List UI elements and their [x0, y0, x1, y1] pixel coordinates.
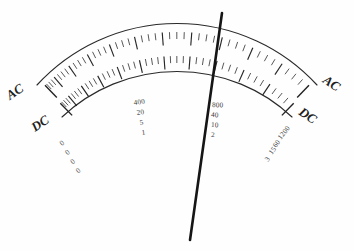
ac-major-tick — [87, 55, 93, 66]
ac-label-left: AC — [2, 80, 26, 103]
dc-major-tick — [98, 76, 104, 87]
ac-minor-tick — [206, 34, 207, 41]
scale-value-mid-left-3: 1 — [141, 129, 146, 137]
ac-minor-tick — [235, 42, 237, 49]
ac-minor-tick — [155, 33, 156, 40]
ac-minor-tick — [93, 52, 96, 58]
ac-minor-tick — [128, 38, 130, 45]
ac-end-tick — [297, 85, 309, 97]
meter-scale-drawing: AC AC DC DC 0000 400 20 5 1 800 40 10 2 — [0, 0, 354, 251]
ac-label-right: AC — [319, 71, 343, 94]
ac-major-tick — [135, 37, 138, 50]
ac-end-tick — [45, 85, 57, 97]
dc-minor-tick — [158, 57, 159, 64]
dc-major-tick — [68, 96, 76, 106]
ac-minor-tick — [98, 49, 101, 55]
ac-major-tick — [219, 37, 222, 50]
scale-value-mid-right-1: 40 — [211, 111, 219, 119]
ac-minor-tick — [57, 74, 61, 79]
ac-minor-tick — [78, 60, 82, 66]
dc-minor-tick — [235, 67, 238, 74]
ac-arc-group: AC AC — [2, 23, 343, 103]
dc-major-tick — [239, 70, 244, 82]
ac-major-tick — [162, 33, 163, 46]
ac-minor-tick — [213, 36, 214, 43]
dc-minor-tick — [228, 65, 230, 72]
ac-minor-tick — [298, 79, 303, 84]
dc-minor-tick — [202, 58, 203, 65]
dc-tick-marks — [60, 56, 293, 115]
dc-minor-tick — [107, 71, 110, 77]
dc-major-tick — [117, 67, 122, 79]
dc-minor-tick — [78, 88, 82, 94]
ac-minor-tick — [122, 40, 124, 47]
origin-zero-0: 0 — [58, 138, 67, 147]
dc-label-left: DC — [27, 112, 51, 135]
ac-major-tick — [248, 48, 253, 60]
dc-minor-tick — [222, 63, 224, 70]
origin-zero-2: 0 — [68, 156, 77, 165]
meter-face: AC AC DC DC 0000 400 20 5 1 800 40 10 2 — [0, 0, 354, 251]
dc-arc-line — [62, 71, 292, 117]
dc-minor-tick — [74, 91, 78, 97]
ac-minor-tick — [264, 55, 267, 61]
dc-minor-tick — [134, 62, 136, 69]
ac-minor-tick — [73, 63, 77, 69]
ac-minor-tick — [271, 59, 275, 65]
dc-minor-tick — [102, 74, 105, 80]
dc-minor-tick — [209, 59, 210, 66]
dc-label-right: DC — [295, 103, 319, 126]
dc-major-tick — [189, 57, 190, 70]
ac-minor-tick — [51, 80, 56, 85]
ac-minor-tick — [292, 74, 296, 79]
dc-major-tick — [263, 84, 270, 95]
dc-arc-group: DC DC — [27, 56, 319, 135]
ac-minor-tick — [148, 34, 149, 41]
ac-minor-tick — [228, 40, 230, 47]
dc-minor-tick — [71, 93, 75, 98]
ac-minor-tick — [82, 57, 85, 63]
origin-zero-3: 0 — [74, 166, 83, 175]
origin-zero-1: 0 — [63, 147, 72, 156]
dc-minor-tick — [123, 65, 125, 72]
ac-tick-marks — [45, 32, 309, 98]
ac-minor-tick — [243, 45, 246, 52]
ac-major-tick — [191, 33, 192, 46]
dc-minor-tick — [85, 83, 89, 89]
scale-value-mid-left-0: 400 — [133, 97, 146, 107]
ac-minor-tick — [65, 69, 69, 75]
dc-major-tick — [139, 60, 142, 73]
scale-value-right-end-3: 3 — [263, 155, 272, 163]
dc-minor-tick — [196, 57, 197, 64]
scale-labels-mid-left: 400 20 5 1 — [133, 97, 146, 137]
dc-minor-tick — [260, 80, 264, 86]
origin-zero-stack: 0000 — [58, 138, 83, 175]
scale-value-mid-right-2: 10 — [211, 121, 219, 129]
scale-labels-mid-right: 800 40 10 2 — [211, 101, 224, 139]
dc-minor-tick — [93, 78, 96, 84]
scale-value-mid-left-2: 5 — [139, 119, 144, 127]
ac-minor-tick — [61, 72, 65, 78]
ac-minor-tick — [257, 51, 260, 57]
dc-minor-tick — [254, 76, 257, 82]
dc-minor-tick — [278, 93, 282, 98]
dc-minor-tick — [145, 59, 146, 66]
dc-minor-tick — [248, 73, 251, 79]
dc-major-tick — [164, 57, 165, 70]
scale-value-mid-right-3: 2 — [211, 131, 215, 139]
scale-value-mid-right-0: 800 — [212, 101, 224, 109]
ac-minor-tick — [199, 33, 200, 40]
scale-value-right-end-0: 1200 — [276, 124, 292, 141]
dc-minor-tick — [283, 98, 288, 103]
dc-minor-tick — [272, 88, 276, 94]
ac-minor-tick — [49, 82, 54, 87]
scale-labels-right-end: 1200 60 15 3 — [263, 124, 292, 163]
ac-minor-tick — [285, 69, 289, 75]
scale-value-mid-left-1: 20 — [136, 108, 145, 117]
ac-minor-tick — [115, 42, 117, 49]
ac-minor-tick — [104, 47, 107, 53]
ac-major-tick — [69, 66, 76, 77]
dc-minor-tick — [112, 69, 115, 75]
dc-minor-tick — [128, 63, 130, 70]
dc-minor-tick — [66, 98, 71, 103]
